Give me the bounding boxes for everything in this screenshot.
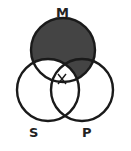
label-m: M bbox=[56, 5, 69, 20]
venn-diagram: M S P bbox=[0, 0, 131, 151]
label-p: P bbox=[82, 125, 92, 140]
label-s: S bbox=[29, 125, 38, 140]
